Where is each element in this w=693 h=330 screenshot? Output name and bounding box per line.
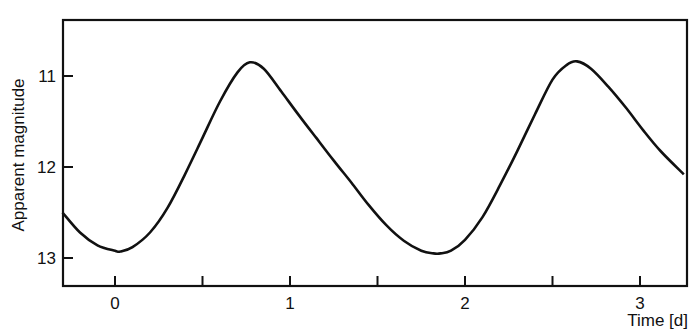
y-axis-label: Apparent magnitude — [9, 78, 28, 231]
y-tick-label: 13 — [37, 249, 56, 268]
y-axis-ticks: 111213 — [37, 67, 73, 268]
x-tick-label: 2 — [460, 294, 469, 313]
x-axis-ticks: 0123 — [110, 276, 644, 313]
data-series — [63, 61, 684, 254]
y-tick-label: 12 — [37, 158, 56, 177]
x-tick-label: 1 — [285, 294, 294, 313]
x-axis-label: Time [d] — [627, 311, 688, 330]
x-tick-label: 0 — [110, 294, 119, 313]
y-tick-label: 11 — [38, 67, 56, 86]
plot-frame — [63, 20, 687, 286]
light-curve-chart: 111213 0123 Apparent magnitude Time [d] — [0, 0, 693, 330]
light-curve-line — [63, 61, 684, 254]
